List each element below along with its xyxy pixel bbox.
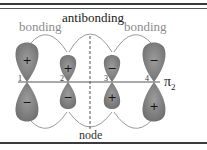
- lower-interaction-arcs: [30, 112, 152, 128]
- upper-interaction-arcs: [30, 34, 152, 52]
- sign-1-top: +: [22, 54, 31, 67]
- sign-3-top: −: [107, 62, 116, 75]
- sign-3-bottom: +: [107, 91, 116, 104]
- bottom-border: [0, 142, 207, 144]
- orbital-subscript: 2: [171, 82, 176, 92]
- bonding-label-right: bonding: [124, 20, 167, 33]
- atom-number-3: 3: [104, 74, 108, 83]
- sign-4-bottom: +: [149, 100, 158, 113]
- orbital-label: π2: [164, 75, 176, 92]
- atom-number-1: 1: [18, 74, 22, 83]
- bonding-label-left: bonding: [19, 20, 62, 33]
- arc-lower-2-3: [69, 112, 112, 127]
- atom-number-4: 4: [145, 74, 149, 83]
- antibonding-label: antibonding: [62, 11, 124, 24]
- sign-1-bottom: −: [22, 96, 31, 109]
- sign-2-top: +: [63, 62, 72, 75]
- atom-number-2: 2: [60, 74, 64, 83]
- node-label: node: [79, 129, 102, 141]
- sign-2-bottom: −: [63, 91, 72, 104]
- sign-4-top: −: [149, 54, 158, 67]
